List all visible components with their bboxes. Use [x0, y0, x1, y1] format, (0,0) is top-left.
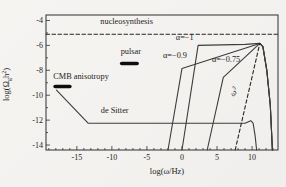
y-tick-label: -10	[32, 91, 43, 100]
alpha-075-label: α=−0.75	[212, 55, 240, 64]
y-tick-label: -14	[32, 141, 43, 150]
alpha-1-label: α=−1	[176, 33, 194, 42]
x-tick-label: -10	[107, 153, 118, 162]
y-tick-label: -4	[36, 16, 43, 25]
y-tick-label: -12	[32, 116, 43, 125]
y-axis-title-post: )	[1, 68, 11, 71]
chart-canvas: -15-10-50510-4-6-8-10-12-14log(ω/Hz)log(…	[0, 0, 286, 187]
cmb-anisotropy-label: CMB anisotropy	[53, 72, 109, 81]
y-tick-label: -8	[36, 66, 43, 75]
nucleosynthesis-label: nucleosynthesis	[100, 17, 153, 26]
x-tick-label: 5	[215, 153, 219, 162]
x-tick-label: -5	[144, 153, 151, 162]
x-tick-label: 0	[180, 153, 184, 162]
x-axis-title: log(ω/Hz)	[150, 166, 185, 176]
de-sitter-label: de Sitter	[101, 106, 129, 115]
pulsar-label: pulsar	[121, 47, 142, 56]
relic-graviton-chart: -15-10-50510-4-6-8-10-12-14log(ω/Hz)log(…	[0, 0, 286, 187]
y-axis-title-pre: log(Ω	[1, 81, 11, 101]
y-tick-label: -6	[36, 41, 43, 50]
x-tick-label: -15	[72, 153, 83, 162]
alpha-09-label: α=−0.9	[163, 51, 187, 60]
x-tick-label: 10	[248, 153, 256, 162]
